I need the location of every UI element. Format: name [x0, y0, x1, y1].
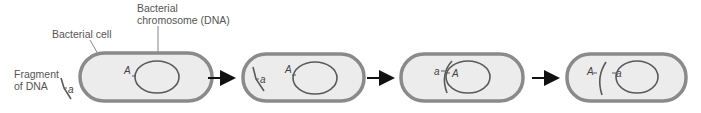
- cell-step-1: [80, 53, 212, 101]
- label-fragment-line1: Fragment: [14, 68, 59, 80]
- allele-a-step3: a: [434, 66, 440, 77]
- allele-A-step2: A: [285, 64, 292, 75]
- cell-step-4: [567, 54, 686, 101]
- label-chromosome-line2: chromosome (DNA): [137, 14, 230, 26]
- allele-A-step3: A: [452, 68, 459, 79]
- allele-a-step2: a: [260, 74, 266, 85]
- label-fragment-line2: of DNA: [14, 80, 48, 92]
- cell-leader-line: [90, 40, 98, 54]
- cell-step-3: [401, 54, 523, 101]
- transformation-diagram: [0, 0, 701, 113]
- allele-a-step1: a: [68, 84, 74, 95]
- allele-a-step4: a: [616, 68, 622, 79]
- allele-A-step1: A: [124, 65, 131, 76]
- allele-A-step4: A: [587, 66, 594, 77]
- label-chromosome-line1: Bacterial: [137, 2, 178, 14]
- label-bacterial-cell: Bacterial cell: [52, 28, 112, 40]
